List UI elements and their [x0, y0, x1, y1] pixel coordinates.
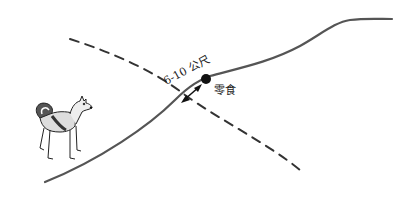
dashed-line	[70, 39, 300, 170]
treat-dot	[201, 74, 211, 84]
treat-label: 零食	[214, 83, 236, 97]
diagram-canvas: 6-10 公尺 零食	[0, 0, 416, 205]
dog-illustration	[36, 96, 92, 159]
trail-path	[45, 19, 392, 182]
